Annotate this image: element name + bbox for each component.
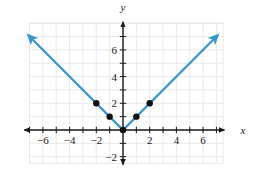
data-point [147, 100, 153, 106]
x-tick-label: −2 [90, 134, 102, 146]
data-point [106, 113, 112, 119]
y-tick-label: 4 [112, 71, 118, 83]
figure-background [0, 0, 254, 182]
x-tick-label: 6 [200, 134, 206, 146]
x-tick-label: −4 [64, 134, 76, 146]
x-tick-label: −6 [37, 134, 49, 146]
y-tick-label: 2 [112, 97, 118, 109]
data-point [120, 127, 126, 133]
absolute-value-graph-figure: −6−4−2246 642−2 x y [0, 0, 254, 182]
x-tick-label: 4 [174, 134, 180, 146]
y-tick-label: 6 [112, 44, 118, 56]
y-tick-label: −2 [105, 151, 117, 163]
data-point [93, 100, 99, 106]
x-tick-label: 2 [147, 134, 153, 146]
data-point [133, 113, 139, 119]
y-axis-label: y [120, 1, 126, 13]
x-axis-label: x [240, 124, 246, 136]
graph-canvas: −6−4−2246 642−2 x y [0, 0, 254, 182]
